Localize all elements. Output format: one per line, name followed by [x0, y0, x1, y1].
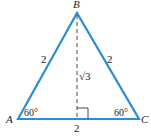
- triangle-diagram: B A C 60° 60° 2 2 2 √3: [0, 0, 151, 140]
- vertex-b-label: B: [73, 0, 80, 10]
- altitude-label: √3: [79, 70, 91, 82]
- angle-a-label: 60°: [24, 107, 38, 118]
- side-bc-label: 2: [107, 53, 113, 65]
- right-angle-marker: [77, 108, 88, 119]
- angle-c-label: 60°: [114, 107, 128, 118]
- side-ab-label: 2: [41, 53, 47, 65]
- vertex-c-label: C: [141, 113, 149, 125]
- triangle-abc: [18, 13, 139, 119]
- side-ac-label: 2: [74, 122, 80, 134]
- vertex-a-label: A: [5, 113, 13, 125]
